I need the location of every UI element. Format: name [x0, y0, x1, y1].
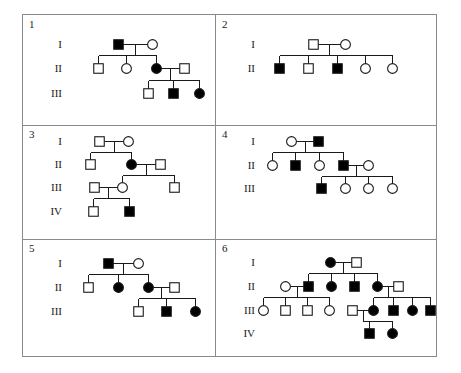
- panel-6-IV-2-female-affected: [388, 329, 398, 339]
- panel-1-I-2-female-unaffected: [148, 40, 158, 50]
- panel-3-I-1-male-unaffected: [95, 137, 105, 147]
- panel-6-II-6-male-unaffected: [394, 282, 404, 292]
- panel-3-II-3-male-unaffected: [156, 160, 166, 170]
- panel-5-I-1-male-affected: [104, 259, 114, 269]
- panel-5-III-1-male-unaffected: [134, 307, 144, 317]
- panel-2-II-4-female-unaffected: [361, 64, 371, 74]
- pedigree-figure: 1 2 3 4 5 6 I II III I II I II III IV I …: [0, 0, 461, 373]
- panel-6-I-1-female-affected: [326, 258, 336, 268]
- panel-4-II-4-male-affected: [339, 161, 349, 171]
- panel-6-III-7-male-affected: [389, 306, 399, 316]
- panel-4-II-5-female-unaffected: [364, 161, 374, 171]
- panel-4: [268, 137, 398, 194]
- panel-6-connectors: [264, 263, 431, 329]
- panel-6-II-4-male-affected: [350, 282, 360, 292]
- panel-6-III-8-female-affected: [408, 306, 418, 316]
- panel-5-II-4-male-unaffected: [170, 283, 180, 293]
- panel-6-III-6-female-affected: [369, 306, 379, 316]
- panel-4-III-3-female-unaffected: [364, 184, 374, 194]
- panel-4-II-2-male-affected: [291, 161, 301, 171]
- panel-1-I-1-male-affected: [114, 40, 124, 50]
- panel-3-connectors: [91, 142, 175, 207]
- panel-6-III-3-male-unaffected: [303, 306, 313, 316]
- panel-3-II-2-female-affected: [127, 160, 137, 170]
- panel-1-II-2-female-unaffected: [122, 64, 132, 74]
- panel-1-II-3-female-affected: [152, 64, 162, 74]
- panel-4-III-1-male-affected: [317, 184, 327, 194]
- panel-2-I-2-female-unaffected: [341, 40, 351, 50]
- panel-3-II-1-male-unaffected: [86, 160, 96, 170]
- panel-5-II-3-female-affected: [144, 283, 154, 293]
- panel-4-I-1-female-unaffected: [287, 137, 297, 147]
- panel-3-III-1-male-unaffected: [90, 183, 100, 193]
- panel-3-IV-1-male-unaffected: [89, 207, 99, 217]
- panel-2: [275, 40, 398, 74]
- panel-6: [259, 258, 436, 339]
- panel-1-III-2-male-affected: [169, 89, 179, 99]
- panel-6-III-4-female-unaffected: [325, 306, 335, 316]
- pedigree-drawing-layer: [0, 0, 461, 373]
- panel-3-III-2-female-unaffected: [118, 183, 128, 193]
- panel-6-II-1-female-unaffected: [281, 282, 291, 292]
- panel-6-III-1-female-unaffected: [259, 306, 269, 316]
- panel-6-III-9-male-affected: [426, 306, 436, 316]
- panel-5-I-2-female-unaffected: [134, 259, 144, 269]
- panel-5-III-2-male-affected: [162, 307, 172, 317]
- panel-6-II-2-male-affected: [304, 282, 314, 292]
- panel-6-II-3-female-affected: [327, 282, 337, 292]
- panel-1-II-4-male-unaffected: [180, 64, 190, 74]
- panel-1: [94, 40, 205, 99]
- panel-2-II-3-male-affected: [333, 64, 343, 74]
- panel-6-IV-1-male-affected: [365, 329, 375, 339]
- panel-2-II-2-male-unaffected: [304, 64, 314, 74]
- panel-2-I-1-male-unaffected: [309, 40, 319, 50]
- panel-1-II-1-male-unaffected: [94, 64, 104, 74]
- panel-6-III-2-male-unaffected: [281, 306, 291, 316]
- panel-2-II-5-female-unaffected: [388, 64, 398, 74]
- panel-4-II-3-female-unaffected: [315, 161, 325, 171]
- panel-1-III-3-female-affected: [195, 89, 205, 99]
- panel-5-II-2-female-affected: [114, 283, 124, 293]
- panel-6-II-5-female-affected: [373, 282, 383, 292]
- panel-5: [84, 259, 201, 317]
- panel-3-I-2-female-unaffected: [124, 137, 134, 147]
- panel-2-II-1-male-affected: [275, 64, 285, 74]
- panel-3-IV-2-male-affected: [125, 207, 135, 217]
- panel-6-I-2-male-unaffected: [352, 258, 362, 268]
- panel-5-II-1-male-unaffected: [84, 283, 94, 293]
- panel-4-II-1-female-unaffected: [268, 161, 278, 171]
- panel-2-connectors: [280, 45, 393, 64]
- panel-1-III-1-male-unaffected: [144, 89, 154, 99]
- panel-3: [86, 137, 180, 217]
- panel-4-III-4-female-unaffected: [388, 184, 398, 194]
- panel-5-III-3-female-affected: [191, 307, 201, 317]
- panel-6-III-5-male-unaffected: [348, 306, 358, 316]
- panel-4-I-2-male-affected: [314, 137, 324, 147]
- panel-3-III-3-male-unaffected: [170, 183, 180, 193]
- panel-4-III-2-female-unaffected: [341, 184, 351, 194]
